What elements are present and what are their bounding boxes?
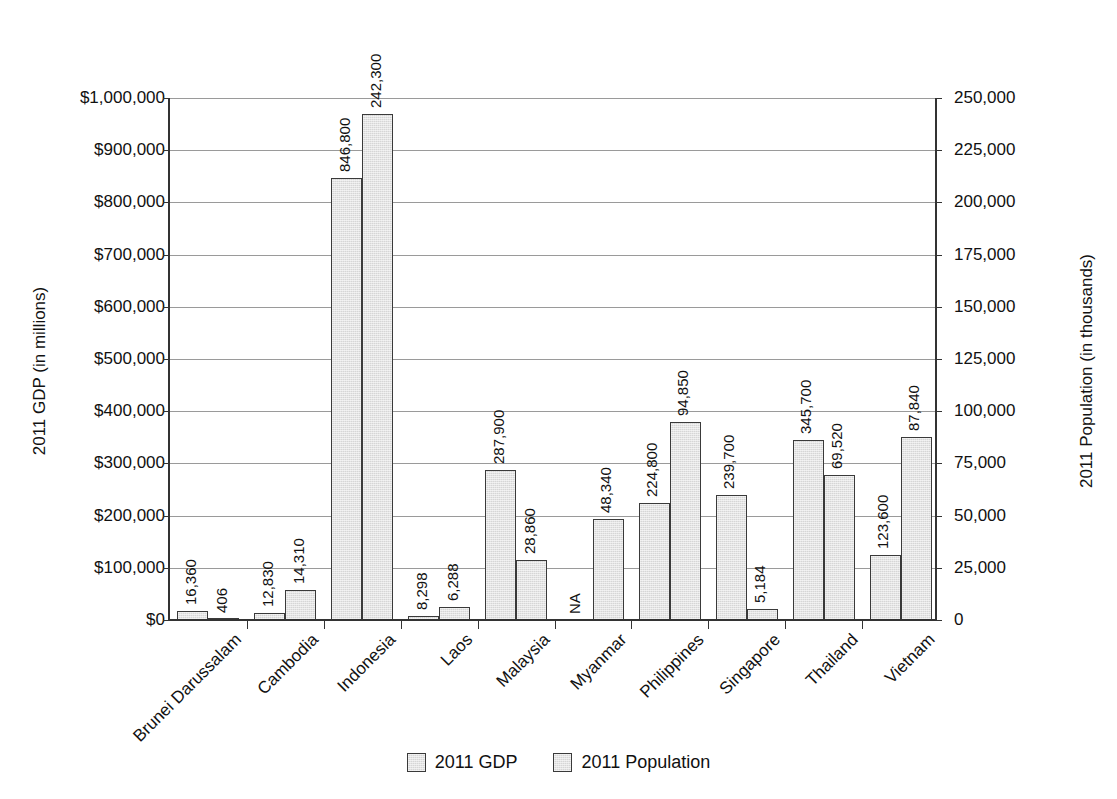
bar-value-label: 87,840: [905, 385, 922, 431]
bar-value-label: 28,860: [521, 508, 538, 554]
y-axis-left-tick-label: $1,000,000: [80, 89, 165, 107]
bar-group: 287,90028,860: [478, 98, 555, 620]
bar-value-label: 12,830: [259, 561, 276, 607]
bar-groups: 16,36040612,83014,310846,800242,3008,298…: [170, 98, 935, 620]
x-axis-group-tickmark: [631, 620, 632, 629]
bar-value-label: 287,900: [490, 409, 507, 463]
x-axis-group-tickmark: [555, 620, 556, 629]
legend-swatch-icon: [553, 753, 572, 772]
bar-value-label: 239,700: [720, 435, 737, 489]
y-axis-left-tickmark: [163, 255, 170, 256]
x-axis-group-tickmark: [708, 620, 709, 629]
y-axis-left-tickmark: [163, 98, 170, 99]
x-axis-group-tickmark: [478, 620, 479, 629]
bar-population[interactable]: [285, 590, 316, 620]
legend-label: 2011 GDP: [435, 752, 518, 773]
bar-value-label: 16,360: [182, 560, 199, 606]
bar-gdp[interactable]: [870, 555, 901, 620]
chart-legend: 2011 GDP2011 Population: [0, 752, 1117, 773]
x-axis-group-tickmark: [785, 620, 786, 629]
bar-value-label: 345,700: [797, 379, 814, 433]
legend-label: 2011 Population: [581, 752, 710, 773]
x-axis-category-label: Myanmar: [567, 630, 631, 694]
x-axis-group-tickmark: [862, 620, 863, 629]
bar-value-label: 94,850: [674, 370, 691, 416]
y-axis-left-tick-label: $400,000: [94, 402, 165, 420]
y-axis-left-tick-label: $300,000: [94, 454, 165, 472]
y-axis-right-tick-label: 150,000: [954, 298, 1015, 316]
y-axis-left-tickmark: [163, 307, 170, 308]
x-axis-category-label: Laos: [437, 630, 477, 670]
bar-population[interactable]: [516, 560, 547, 620]
y-axis-right-tick-label: 125,000: [954, 350, 1015, 368]
y-axis-right-tick-label: 175,000: [954, 246, 1015, 264]
bar-gdp[interactable]: [793, 440, 824, 620]
bar-value-label: 5,184: [751, 566, 768, 604]
y-axis-right-ticks: 025,00050,00075,000100,000125,000150,000…: [954, 0, 1074, 799]
y-axis-left-tickmark: [163, 411, 170, 412]
bar-value-label: 8,298: [413, 572, 430, 610]
x-axis-group-tickmark: [401, 620, 402, 629]
bar-gdp[interactable]: [331, 178, 362, 620]
x-axis-category-label: Indonesia: [334, 630, 400, 696]
y-axis-left-tickmark: [163, 150, 170, 151]
x-axis-category-label: Philippines: [636, 630, 708, 702]
bar-population[interactable]: [901, 437, 932, 620]
bar-value-label: 48,340: [597, 467, 614, 513]
y-axis-left-tick-label: $200,000: [94, 507, 165, 525]
y-axis-left-tickmark: [163, 516, 170, 517]
y-axis-left-ticks: $0$100,000$200,000$300,000$400,000$500,0…: [60, 0, 165, 799]
bar-population[interactable]: [593, 519, 624, 620]
bar-chart: 2011 GDP (in millions) 2011 Population (…: [0, 0, 1117, 799]
bar-value-label: 6,288: [444, 563, 461, 601]
y-axis-left-title: 2011 GDP (in millions): [30, 241, 50, 501]
x-axis-category-label: Singapore: [715, 630, 784, 699]
y-axis-right-title: 2011 Population (in thousands): [1077, 231, 1097, 511]
x-axis-category-label: Cambodia: [254, 630, 323, 699]
bar-gdp[interactable]: [485, 470, 516, 620]
y-axis-left-tick-label: $600,000: [94, 298, 165, 316]
y-axis-right-tick-label: 100,000: [954, 402, 1015, 420]
bar-gdp[interactable]: [639, 503, 670, 620]
plot-area: 16,36040612,83014,310846,800242,3008,298…: [168, 98, 937, 620]
bar-value-label: 846,800: [336, 118, 353, 172]
y-axis-right-tick-label: 200,000: [954, 193, 1015, 211]
y-axis-right-tick-label: 225,000: [954, 141, 1015, 159]
bar-population[interactable]: [670, 422, 701, 620]
y-axis-right-tick-label: 0: [954, 611, 963, 629]
bar-group: 123,60087,840: [862, 98, 939, 620]
bar-value-label: 224,800: [643, 442, 660, 496]
bar-group: 8,2986,288: [401, 98, 478, 620]
bar-population[interactable]: [824, 475, 855, 620]
bar-group: NA48,340: [555, 98, 632, 620]
y-axis-right-tick-label: 75,000: [954, 454, 1006, 472]
bar-value-label: 242,300: [367, 54, 384, 108]
bar-value-label: 14,310: [290, 538, 307, 584]
bar-group: 239,7005,184: [708, 98, 785, 620]
x-axis-category-label: Thailand: [802, 630, 862, 690]
x-axis-category-label: Vietnam: [881, 630, 939, 688]
bar-group: 846,800242,300: [324, 98, 401, 620]
x-axis-category-label: Malaysia: [493, 630, 555, 692]
legend-item[interactable]: 2011 Population: [553, 752, 710, 773]
bar-value-label: NA: [566, 593, 583, 614]
y-axis-left-tickmark: [163, 568, 170, 569]
y-axis-left-tickmark: [163, 202, 170, 203]
y-axis-left-tickmark: [163, 463, 170, 464]
x-axis-baseline: [168, 619, 937, 621]
legend-item[interactable]: 2011 GDP: [407, 752, 518, 773]
bar-population[interactable]: [362, 114, 393, 620]
y-axis-right-tick-label: 250,000: [954, 89, 1015, 107]
bar-group: 12,83014,310: [247, 98, 324, 620]
y-axis-left-tickmark: [163, 359, 170, 360]
bar-group: 16,360406: [170, 98, 247, 620]
x-axis-group-tickmark: [324, 620, 325, 629]
y-axis-left-tick-label: $100,000: [94, 559, 165, 577]
y-axis-right-tick-label: 50,000: [954, 507, 1006, 525]
bar-gdp[interactable]: [716, 495, 747, 620]
y-axis-left-tick-label: $900,000: [94, 141, 165, 159]
bar-group: 345,70069,520: [785, 98, 862, 620]
y-axis-left-tick-label: $800,000: [94, 193, 165, 211]
x-axis-group-tickmark: [247, 620, 248, 629]
y-axis-right-tick-label: 25,000: [954, 559, 1006, 577]
